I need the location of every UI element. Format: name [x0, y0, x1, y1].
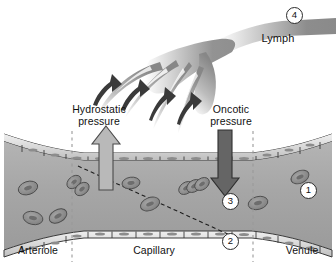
callout-marker-3: 3 — [222, 193, 239, 210]
figure-canvas: Lymph Hydrostatic pressure Oncotic press… — [0, 0, 336, 270]
callout-marker-1: 1 — [300, 182, 317, 199]
callout-marker-4: 4 — [286, 7, 303, 24]
callout-marker-2: 2 — [222, 233, 239, 250]
label-hydrostatic-pressure: Hydrostatic pressure — [60, 104, 138, 127]
label-venule: Venule — [272, 245, 332, 257]
label-capillary: Capillary — [118, 245, 190, 257]
label-arteriole: Arteriole — [4, 245, 72, 257]
label-lymph: Lymph — [246, 33, 310, 45]
label-oncotic-pressure: Oncotic pressure — [196, 104, 266, 127]
